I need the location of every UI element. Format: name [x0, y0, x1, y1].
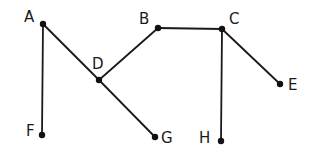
nodes [39, 21, 283, 144]
node-b [155, 25, 161, 31]
edges [42, 24, 280, 141]
node-label-g: G [161, 129, 173, 147]
edge-d-b [99, 28, 158, 80]
node-c [219, 26, 225, 32]
edge-b-c [158, 28, 222, 29]
node-label-c: C [229, 10, 239, 28]
node-label-e: E [288, 76, 297, 94]
edge-d-g [99, 80, 155, 137]
node-h [218, 138, 224, 144]
node-e [277, 81, 283, 87]
edge-c-h [221, 29, 222, 141]
edge-c-e [222, 29, 280, 84]
edge-a-d [43, 24, 99, 80]
node-a [40, 21, 46, 27]
node-label-f: F [26, 122, 35, 140]
node-label-d: D [92, 55, 104, 73]
node-g [152, 134, 158, 140]
node-label-h: H [199, 129, 210, 147]
node-d [96, 77, 102, 83]
edge-a-f [42, 24, 43, 135]
node-label-a: A [24, 8, 35, 26]
node-label-b: B [139, 10, 149, 28]
graph-diagram: ABCDEFGH [0, 0, 317, 162]
node-f [39, 132, 45, 138]
